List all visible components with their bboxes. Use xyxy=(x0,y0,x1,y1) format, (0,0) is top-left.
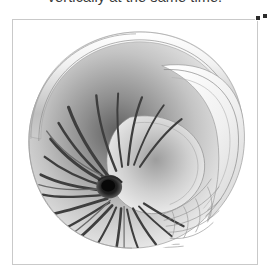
nautilus-shell-illustration xyxy=(13,20,257,264)
document-page: vertically at the same time. xyxy=(0,0,270,271)
body-text-line: vertically at the same time. xyxy=(0,0,270,5)
shell-core xyxy=(96,175,122,199)
figure-object[interactable] xyxy=(12,19,258,265)
figure-frame[interactable] xyxy=(12,19,258,265)
selection-handle-corner[interactable] xyxy=(262,13,268,19)
selection-handle-top-right[interactable] xyxy=(255,15,261,21)
